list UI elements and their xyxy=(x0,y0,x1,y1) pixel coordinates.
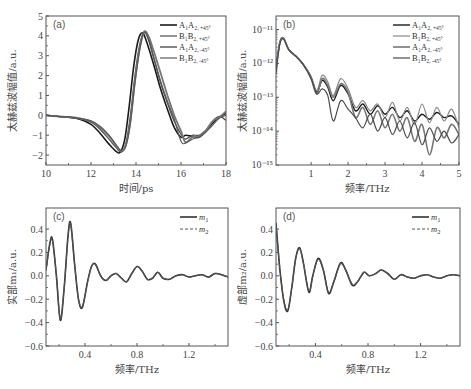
y-tick-label: −0.6 xyxy=(25,341,43,352)
legend-entry-label: m1 xyxy=(199,212,208,223)
x-tick-label: 3 xyxy=(383,168,388,179)
y-tick-label: −0.2 xyxy=(25,294,43,305)
series-group xyxy=(276,223,460,311)
y-axis-label: 太赫兹波幅值/a.u. xyxy=(236,49,248,131)
series-line-B1B2-45- xyxy=(276,39,459,145)
y-tick-label: 0.2 xyxy=(261,247,274,258)
x-tick-label: 1.2 xyxy=(414,349,427,360)
x-axis-label: 频率/THz xyxy=(345,182,389,194)
y-axis-ticks: −2−1012345 xyxy=(32,11,49,161)
x-axis-label: 频率/THz xyxy=(115,363,159,375)
y-tick-label: 4 xyxy=(38,30,43,41)
y-tick-label: −0.4 xyxy=(255,317,273,328)
y-axis-ticks: −0.6−0.4−0.20.00.20.4 xyxy=(25,224,49,352)
panel-label: (a) xyxy=(53,19,65,30)
y-tick-label: 5 xyxy=(38,11,43,22)
y-axis-label: 虚部m₂/a.u. xyxy=(236,249,248,305)
series-group xyxy=(46,221,228,320)
x-tick-label: 12 xyxy=(86,168,96,179)
y-axis-label: 太赫兹波幅值/a.u. xyxy=(6,49,18,131)
legend-entry-label: m2 xyxy=(199,224,208,235)
y-tick-label: 2 xyxy=(38,70,43,81)
y-tick-label: −2 xyxy=(32,150,43,161)
panel-a-time-domain-chart: 1012141618−2−1012345时间/ps太赫兹波幅值/a.u.(a)A… xyxy=(6,11,231,195)
y-tick-label: 10⁻¹² xyxy=(252,57,273,68)
y-tick-label: 0 xyxy=(38,110,43,121)
y-tick-label: 0.4 xyxy=(261,224,274,235)
y-axis-ticks: 10⁻¹¹10⁻¹²10⁻¹³10⁻¹⁴10⁻¹⁵ xyxy=(252,19,279,170)
y-tick-label: 1 xyxy=(38,90,43,101)
x-axis-label: 频率/THz xyxy=(346,363,390,375)
y-tick-label: 10⁻¹⁵ xyxy=(252,159,273,170)
series-line-A1A2-45- xyxy=(276,38,459,155)
x-tick-label: 0.4 xyxy=(309,349,322,360)
x-axis-label: 时间/ps xyxy=(119,182,154,194)
legend-entry-label: m2 xyxy=(431,224,440,235)
x-tick-label: 10 xyxy=(41,168,51,179)
x-tick-label: 18 xyxy=(221,168,231,179)
y-tick-label: 0.2 xyxy=(31,247,44,258)
panel-d-imaginary-part-chart: 0.40.81.2−0.6−0.4−0.20.00.20.4频率/THz虚部m₂… xyxy=(236,208,460,375)
legend-entry-label: A₁A₂, -45° xyxy=(412,42,443,53)
x-tick-label: 1 xyxy=(309,168,314,179)
x-tick-label: 2 xyxy=(346,168,351,179)
x-tick-label: 1.2 xyxy=(183,349,196,360)
x-tick-label: 4 xyxy=(420,168,425,179)
x-tick-label: 14 xyxy=(131,168,141,179)
series-line-m1 xyxy=(46,221,228,320)
legend-entry-label: m1 xyxy=(431,212,440,223)
series-line-m1 xyxy=(276,223,460,311)
y-axis-ticks: −0.6−0.4−0.20.00.20.4 xyxy=(255,224,279,352)
legend-entry-label: B₁B₂, +45° xyxy=(179,31,210,42)
panel-c-real-part-chart: 0.40.81.2−0.6−0.4−0.20.00.20.4频率/THz实部m₁… xyxy=(6,208,228,375)
legend-entry-label: B₁B₂, +45° xyxy=(412,31,443,42)
y-tick-label: 3 xyxy=(38,50,43,61)
x-tick-label: 0.8 xyxy=(362,349,375,360)
y-tick-label: 10⁻¹⁴ xyxy=(252,125,274,136)
series-line-m2 xyxy=(46,223,228,319)
series-group xyxy=(276,38,459,155)
y-tick-label: −0.2 xyxy=(255,294,273,305)
legend: m1m2 xyxy=(412,212,440,235)
panel-label: (d) xyxy=(283,211,295,222)
panel-label: (c) xyxy=(53,211,65,222)
y-tick-label: 0.4 xyxy=(31,224,44,235)
legend-entry-label: B₁B₂, -45° xyxy=(179,53,209,64)
x-tick-label: 0.4 xyxy=(79,349,92,360)
y-tick-label: 0.0 xyxy=(261,270,274,281)
x-tick-label: 5 xyxy=(457,168,462,179)
y-axis-label: 实部m₁/a.u. xyxy=(6,249,18,305)
figure: 1012141618−2−1012345时间/ps太赫兹波幅值/a.u.(a)A… xyxy=(0,0,471,389)
y-tick-label: 0.0 xyxy=(31,270,44,281)
y-tick-label: −1 xyxy=(32,130,43,141)
y-tick-label: −0.6 xyxy=(255,341,273,352)
legend: A₁A₂, +45°B₁B₂, +45°A₁A₂, -45°B₁B₂, -45° xyxy=(160,20,211,64)
legend: A₁A₂, +45°B₁B₂, +45°A₁A₂, -45°B₁B₂, -45° xyxy=(393,20,444,64)
legend-entry-label: B₁B₂, -45° xyxy=(412,53,442,64)
x-tick-label: 0.8 xyxy=(131,349,144,360)
legend: m1m2 xyxy=(180,212,208,235)
y-tick-label: 10⁻¹¹ xyxy=(252,24,273,35)
legend-entry-label: A₁A₂, +45° xyxy=(179,20,211,31)
legend-entry-label: A₁A₂, +45° xyxy=(412,20,444,31)
panel-label: (b) xyxy=(283,19,295,30)
y-tick-label: −0.4 xyxy=(25,317,43,328)
panel-b-frequency-spectrum-chart: 1234510⁻¹¹10⁻¹²10⁻¹³10⁻¹⁴10⁻¹⁵频率/THz太赫兹波… xyxy=(236,16,462,194)
x-tick-label: 16 xyxy=(176,168,186,179)
legend-entry-label: A₁A₂, -45° xyxy=(179,42,210,53)
y-tick-label: 10⁻¹³ xyxy=(252,91,273,102)
